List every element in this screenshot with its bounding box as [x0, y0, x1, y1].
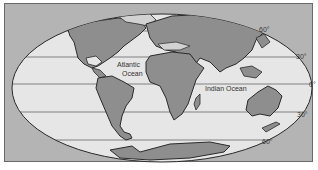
indian-ocean-label: Indian Ocean — [205, 85, 247, 92]
latitude-label-30n: 30° — [296, 53, 307, 60]
atlantic-ocean-label-line1: Atlantic — [117, 61, 140, 68]
atlantic-ocean-label-line2: Ocean — [122, 70, 143, 77]
latitude-label-equator: 0° — [309, 81, 316, 88]
latitude-label-60s: 60° — [262, 138, 273, 145]
latitude-label-60n: 60° — [259, 26, 270, 33]
latitude-label-30s: 30° — [297, 111, 308, 118]
